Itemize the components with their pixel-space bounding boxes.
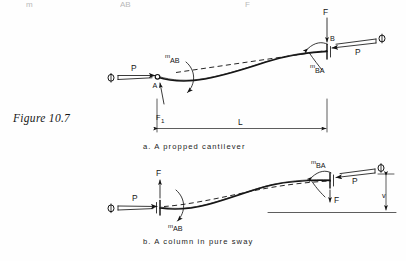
- axial-load-right-label-b: P: [352, 176, 358, 186]
- deflected-shape-a: [157, 52, 327, 82]
- moment-ba-label-sub-a: BA: [315, 66, 325, 75]
- reaction-f1-a: F 1: [156, 83, 165, 124]
- node-label-b-a: B: [330, 34, 335, 43]
- rotation-phi-left-b: [108, 204, 114, 213]
- node-label-a: A: [153, 81, 158, 90]
- figure-drawing: A P m AB F 1: [0, 0, 406, 261]
- axial-load-left-a: P: [118, 63, 155, 80]
- axial-load-right-a: P: [332, 39, 376, 57]
- transverse-load-f-a: F: [323, 7, 328, 42]
- axial-load-left-label-a: P: [131, 63, 137, 73]
- moment-ba-arc-a: [308, 43, 328, 49]
- axial-load-left-b: P: [118, 193, 157, 210]
- rotation-phi-left-a: [108, 73, 114, 82]
- axial-load-right-label-a: P: [355, 47, 361, 57]
- reaction-f1-sub-a: 1: [161, 117, 165, 124]
- moment-ab-label-sub-a: AB: [170, 56, 180, 65]
- rotation-phi-right-a: [379, 34, 385, 43]
- moment-ab-b: m AB: [168, 190, 184, 233]
- shear-f-left-b: F: [156, 168, 161, 198]
- fixed-end-b-a: B: [327, 34, 335, 59]
- moment-ba-a: m BA: [308, 43, 328, 75]
- rotation-phi-right-b: [378, 164, 384, 173]
- deflected-shape-a-inner: [158, 51, 327, 80]
- figure-page: m AB F Figure 10.7 a. A propped cantilev…: [0, 0, 406, 261]
- shear-f-right-b: F: [330, 190, 339, 205]
- pin-support-a: [155, 75, 160, 80]
- axial-load-left-label-b: P: [132, 193, 138, 203]
- sway-dimension-b: v: [378, 174, 394, 210]
- span-dimension-a: L: [157, 99, 327, 132]
- axial-load-right-b: P: [336, 169, 375, 186]
- shear-f-left-label-b: F: [156, 168, 161, 178]
- undeflected-chord-a: [176, 51, 327, 73]
- transverse-load-f-label-a: F: [323, 7, 328, 17]
- deflected-shape-b: [160, 180, 330, 209]
- undeflected-chord-b: [164, 181, 331, 207]
- sway-deflection-label-b: v: [382, 191, 386, 200]
- moment-ab-label-sub-b: AB: [173, 224, 183, 233]
- moment-ba-label-sub-b: BA: [316, 161, 326, 170]
- diagram-a-group: A P m AB F 1: [108, 7, 385, 132]
- diagram-b-group: P F m AB: [108, 158, 396, 233]
- shear-f-right-label-b: F: [334, 195, 339, 205]
- moment-ba-arc-b: [312, 171, 331, 177]
- fixed-end-a-b: [157, 201, 161, 216]
- deflected-shape-b-inner: [161, 180, 330, 209]
- fixed-end-b-b: [330, 173, 334, 188]
- span-length-label-a: L: [238, 117, 243, 127]
- moment-ab-arc-b: [176, 190, 184, 221]
- moment-ab-arc-a: [186, 62, 194, 93]
- moment-ba-b: m BA: [311, 158, 331, 197]
